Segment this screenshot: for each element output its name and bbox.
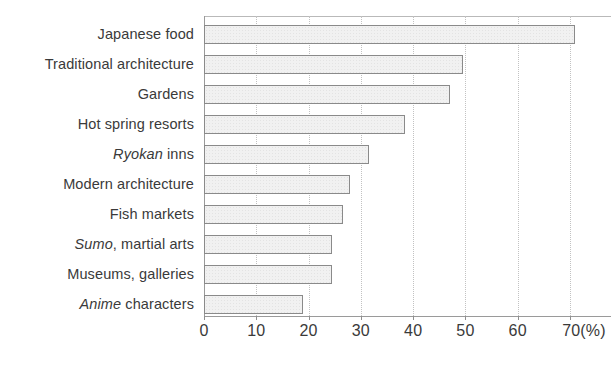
bar (204, 235, 332, 254)
x-tick-label-10: 10 (247, 322, 265, 340)
tick-mark-70 (570, 316, 571, 320)
category-label-italic-part: Anime (80, 296, 122, 312)
bar-chart: Japanese foodTraditional architectureGar… (0, 0, 615, 373)
plot-area (204, 16, 570, 316)
category-label-plain-part: , martial arts (113, 236, 194, 252)
gridline-50 (465, 16, 467, 316)
category-label: Traditional architecture (0, 55, 194, 74)
x-tick-label-20: 20 (299, 322, 317, 340)
bar (204, 295, 303, 314)
tick-mark-40 (413, 316, 414, 320)
tick-mark-50 (465, 316, 466, 320)
category-label: Anime characters (0, 295, 194, 314)
category-label-italic-part: Sumo (75, 236, 113, 252)
bar (204, 115, 405, 134)
category-label-plain-part: characters (121, 296, 194, 312)
bar (204, 55, 463, 74)
bar (204, 205, 343, 224)
bar (204, 25, 575, 44)
bar (204, 175, 350, 194)
bar (204, 265, 332, 284)
tick-mark-0 (204, 316, 205, 320)
x-tick-label-60: 60 (509, 322, 527, 340)
x-tick-label-0: 0 (199, 322, 208, 340)
category-label-plain-part: inns (163, 146, 194, 162)
gridline-60 (518, 16, 520, 316)
category-label-italic-part: Ryokan (113, 146, 163, 162)
tick-mark-10 (256, 316, 257, 320)
category-label: Hot spring resorts (0, 115, 194, 134)
tick-mark-20 (309, 316, 310, 320)
category-label: Museums, galleries (0, 265, 194, 284)
tick-mark-30 (361, 316, 362, 320)
category-label: Gardens (0, 85, 194, 104)
tick-mark-60 (518, 316, 519, 320)
gridline-70 (570, 16, 572, 316)
category-label: Ryokan inns (0, 145, 194, 164)
bar (204, 85, 450, 104)
category-label: Sumo, martial arts (0, 235, 194, 254)
x-tick-label-40: 40 (404, 322, 422, 340)
x-tick-label-70: 70(%) (562, 322, 606, 340)
category-label: Japanese food (0, 25, 194, 44)
category-label: Fish markets (0, 205, 194, 224)
x-tick-label-50: 50 (456, 322, 474, 340)
category-axis-labels: Japanese foodTraditional architectureGar… (0, 16, 200, 316)
axis-bottom-line (204, 316, 611, 317)
x-tick-label-30: 30 (352, 322, 370, 340)
bar (204, 145, 369, 164)
category-label: Modern architecture (0, 175, 194, 194)
